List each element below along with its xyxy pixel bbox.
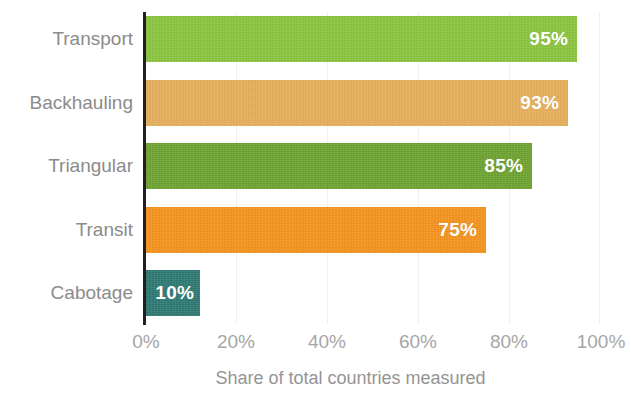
x-axis-title: Share of total countries measured <box>0 368 631 389</box>
xtick-label-20: 20% <box>191 331 281 353</box>
plot-area: 95% 93% 85% 75% 10% <box>145 12 600 324</box>
xtick-label-60: 60% <box>373 331 463 353</box>
bar-row: 93% <box>145 80 600 126</box>
xtick-label-0: 0% <box>101 331 191 353</box>
category-label-transport: Transport <box>5 16 133 62</box>
bar-value-label: 10% <box>155 282 194 304</box>
bar-value-label: 85% <box>484 155 523 177</box>
category-label-backhauling: Backhauling <box>5 80 133 126</box>
category-label-cabotage: Cabotage <box>5 270 133 316</box>
bar-chart: 95% 93% 85% 75% 10% <box>0 0 631 406</box>
bar-row: 85% <box>145 143 600 189</box>
bar-value-label: 93% <box>520 92 559 114</box>
bar-row: 95% <box>145 16 600 62</box>
bar-value-label: 75% <box>438 219 477 241</box>
bar-backhauling[interactable]: 93% <box>145 80 568 126</box>
bar-row: 10% <box>145 270 600 316</box>
bar-transit[interactable]: 75% <box>145 207 486 253</box>
category-label-transit: Transit <box>5 207 133 253</box>
xtick-label-40: 40% <box>282 331 372 353</box>
y-axis-line <box>143 12 146 325</box>
bar-cabotage[interactable]: 10% <box>145 270 200 316</box>
bar-transport[interactable]: 95% <box>145 16 577 62</box>
bar-value-label: 95% <box>529 28 568 50</box>
category-label-triangular: Triangular <box>5 143 133 189</box>
xtick-label-80: 80% <box>464 331 554 353</box>
bar-triangular[interactable]: 85% <box>145 143 532 189</box>
category-axis: Transport Backhauling Triangular Transit… <box>0 12 133 324</box>
xtick-label-100: 100% <box>556 331 631 353</box>
bar-row: 75% <box>145 207 600 253</box>
